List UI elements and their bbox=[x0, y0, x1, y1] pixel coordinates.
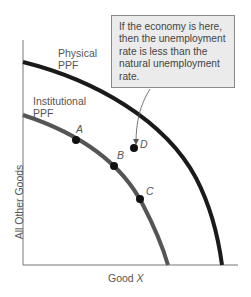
callout-line: If the economy is here, bbox=[119, 21, 234, 33]
callout-line: natural unemployment bbox=[119, 58, 234, 70]
callout-box: If the economy is here, then the unemplo… bbox=[111, 15, 235, 88]
physical-ppf-curve bbox=[23, 62, 222, 265]
physical-ppf-label: Physical PPF bbox=[58, 47, 97, 71]
point-d-label: D bbox=[140, 138, 148, 150]
institutional-ppf-label: Institutional PPF bbox=[33, 95, 86, 119]
callout-line: then the unemployment bbox=[119, 33, 234, 45]
point-d bbox=[130, 144, 138, 152]
callout-line: rate is less than the bbox=[119, 46, 234, 58]
point-c bbox=[136, 195, 144, 203]
point-a-label: A bbox=[76, 123, 83, 135]
y-axis-label: All Other Goods bbox=[13, 157, 25, 247]
physical-ppf-label-line2: PPF bbox=[58, 59, 97, 71]
point-b-label: B bbox=[117, 149, 124, 161]
point-b bbox=[110, 162, 118, 170]
institutional-ppf-label-line1: Institutional bbox=[33, 95, 86, 107]
institutional-ppf-label-line2: PPF bbox=[33, 107, 86, 119]
point-c-label: C bbox=[146, 185, 154, 197]
physical-ppf-label-line1: Physical bbox=[58, 47, 97, 59]
x-axis-label: Good X bbox=[108, 272, 144, 284]
callout-line: rate. bbox=[119, 71, 234, 83]
point-a bbox=[72, 136, 80, 144]
x-axis-label-variable: X bbox=[137, 272, 144, 284]
x-axis-label-prefix: Good bbox=[108, 272, 137, 284]
